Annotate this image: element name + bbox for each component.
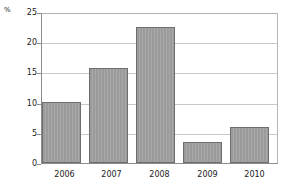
- x-tick-label-2009: 2009: [184, 170, 231, 180]
- bar-2008[interactable]: [136, 27, 175, 163]
- plot-area: [41, 13, 278, 164]
- y-tick-label-0: 0: [21, 159, 37, 168]
- y-tick-mark-0: [37, 164, 41, 165]
- y-tick-label-20: 20: [21, 38, 37, 47]
- x-tick-label-2008: 2008: [136, 170, 183, 180]
- y-tick-label-10: 10: [21, 99, 37, 108]
- x-tick-label-2007: 2007: [88, 170, 135, 180]
- bars-layer: [42, 13, 277, 163]
- bar-2010[interactable]: [230, 127, 269, 163]
- y-tick-label-15: 15: [21, 68, 37, 77]
- bar-2009[interactable]: [183, 142, 222, 163]
- bar-chart: % 25 20 15 10 5 0 2006 2007 2008 2009 20…: [0, 0, 289, 189]
- y-tick-label-25: 25: [21, 8, 37, 17]
- x-tick-label-2006: 2006: [41, 170, 88, 180]
- bar-2007[interactable]: [89, 68, 128, 163]
- x-tick-label-2010: 2010: [231, 170, 278, 180]
- y-tick-label-5: 5: [21, 129, 37, 138]
- y-axis-unit-label: %: [4, 6, 11, 15]
- bar-2006[interactable]: [42, 102, 81, 163]
